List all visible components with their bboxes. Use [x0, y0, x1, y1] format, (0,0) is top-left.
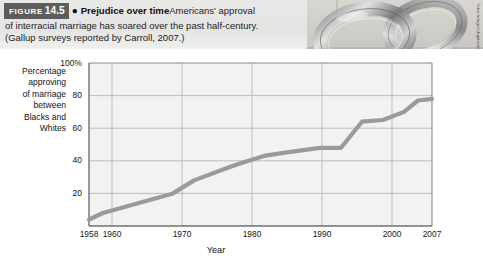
caption-intro-text: Americans' approval [169, 5, 255, 16]
bullet-icon: ● [72, 5, 78, 16]
figure-title: Prejudice over time [81, 5, 170, 16]
figure-badge-word: FIGURE [9, 7, 43, 16]
caption-source-line: (Gallup surveys reported by Carroll, 200… [5, 32, 316, 44]
figure-container: FIGURE14.5●Prejudice over timeAmericans'… [0, 0, 483, 276]
x-axis-title: Year [0, 245, 432, 255]
chart-container: Percentage approving of marriage between… [0, 49, 483, 276]
x-tick-label-2007: 2007 [411, 229, 453, 239]
x-tick-label-1990: 1990 [301, 229, 343, 239]
figure-caption-box: FIGURE14.5●Prejudice over timeAmericans'… [0, 0, 322, 49]
caption-second-line: of interracial marriage has soared over … [5, 20, 316, 32]
figure-number-badge: FIGURE14.5 [4, 3, 69, 19]
x-tick-label-1980: 1980 [231, 229, 273, 239]
x-tick-label-1970: 1970 [161, 229, 203, 239]
figure-badge-number: 14.5 [45, 5, 65, 16]
plot-svg [0, 49, 483, 276]
x-tick-label-2000: 2000 [371, 229, 413, 239]
x-tick-label-1960: 1960 [91, 229, 133, 239]
caption-first-line: FIGURE14.5●Prejudice over timeAmericans'… [4, 3, 316, 19]
